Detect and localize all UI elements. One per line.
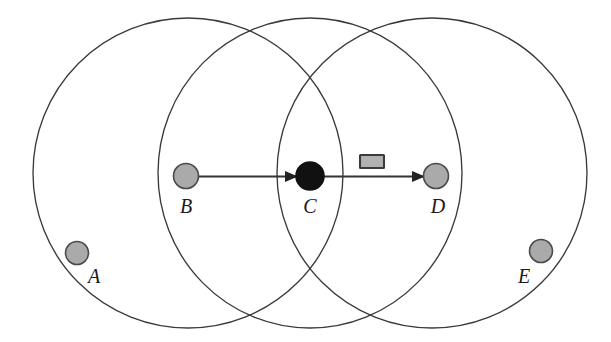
node-c-marker[interactable]: [296, 162, 324, 190]
node-d-marker[interactable]: [424, 164, 449, 189]
node-label-group: A B C D E: [86, 195, 530, 287]
diagram-canvas: A B C D E: [0, 0, 611, 342]
node-b-marker[interactable]: [174, 164, 199, 189]
node-a-marker[interactable]: [66, 242, 89, 265]
node-e-label: E: [517, 265, 530, 287]
node-d-label: D: [430, 195, 446, 217]
node-a-label: A: [86, 265, 101, 287]
node-e-marker[interactable]: [530, 240, 553, 263]
network-diagram-svg: A B C D E: [0, 0, 611, 342]
packet-group: [360, 155, 384, 168]
packet-icon: [360, 155, 384, 168]
node-c-label: C: [303, 195, 317, 217]
node-b-label: B: [180, 195, 192, 217]
